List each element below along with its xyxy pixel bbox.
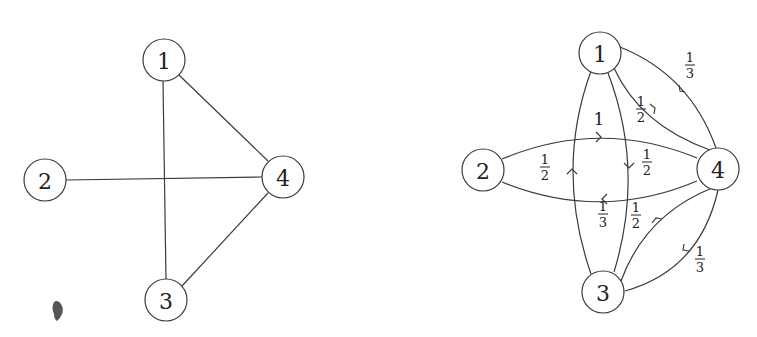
node-label: 1: [593, 42, 607, 67]
edge-4-1: [620, 47, 716, 148]
arrowhead-4-3: [683, 244, 689, 251]
svg-text:3: 3: [686, 66, 694, 81]
svg-text:1: 1: [541, 152, 549, 167]
node-label: 2: [38, 169, 52, 194]
svg-text:1: 1: [643, 147, 651, 162]
edge-2-4: [502, 138, 697, 159]
svg-text:1: 1: [632, 200, 640, 215]
edge-1-3: [163, 81, 166, 279]
node-3: 3: [582, 271, 624, 313]
edge-1-4: [179, 75, 268, 161]
right-graph: 1 1 3 1 2 1 2 1 2 1 3 1 2: [462, 32, 739, 313]
node-label: 2: [476, 159, 490, 184]
node-label: 3: [596, 281, 610, 306]
svg-text:1: 1: [686, 50, 694, 65]
svg-text:2: 2: [632, 216, 640, 231]
node-2: 2: [462, 149, 504, 191]
diagram-canvas: 1 2 3 4: [0, 0, 757, 337]
edge-1-3: [608, 73, 628, 272]
arrowhead-1-3: [624, 163, 634, 168]
node-3: 3: [145, 279, 187, 321]
svg-text:1: 1: [696, 244, 704, 259]
weight-2-4: 1: [594, 109, 605, 129]
weight-4-2: 1 3: [598, 199, 608, 230]
svg-text:2: 2: [643, 163, 651, 178]
weight-4-1: 1 3: [685, 50, 695, 81]
arrowhead-2-4: [596, 132, 601, 142]
left-graph: 1 2 3 4: [24, 39, 304, 321]
weight-1-4: 1 2: [636, 94, 646, 125]
svg-text:3: 3: [696, 260, 704, 275]
node-label: 4: [711, 158, 725, 183]
svg-text:3: 3: [599, 215, 607, 230]
node-4: 4: [262, 156, 304, 198]
node-label: 3: [159, 289, 173, 314]
ink-smudge: [53, 301, 63, 321]
node-label: 1: [157, 49, 171, 74]
arrowhead-3-1: [567, 169, 577, 174]
weight-1-3: 1 2: [642, 147, 652, 178]
node-1: 1: [143, 39, 185, 81]
node-2: 2: [24, 159, 66, 201]
svg-text:2: 2: [541, 168, 549, 183]
arrowhead-4-1: [679, 85, 685, 92]
svg-text:1: 1: [637, 94, 645, 109]
node-label: 4: [276, 166, 290, 191]
weight-3-1: 1 2: [540, 152, 550, 183]
svg-text:2: 2: [637, 110, 645, 125]
edge-1-4: [614, 68, 710, 150]
weight-3-4: 1 2: [631, 200, 641, 231]
weight-4-3: 1 3: [695, 244, 705, 275]
node-1: 1: [579, 32, 621, 74]
edge-3-4: [182, 193, 268, 286]
arrowhead-1-4: [650, 104, 655, 114]
node-4: 4: [697, 148, 739, 190]
svg-text:1: 1: [599, 199, 607, 214]
